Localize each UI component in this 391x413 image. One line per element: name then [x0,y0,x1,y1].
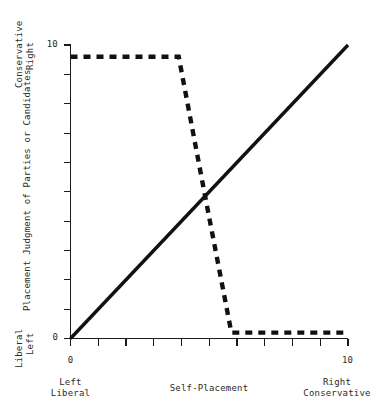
y-axis-pole-low-line1: Liberal [14,329,25,368]
chart-canvas [0,0,391,413]
x-axis-ticks [71,339,349,346]
y-axis-title: Placement Judgment of Parties or Candida… [22,69,33,311]
y-axis-ticks [64,45,71,339]
y-axis-pole-high-line2: Right [25,42,36,70]
y-axis-pole-low-line2: Left [25,333,36,355]
x-axis-min-label: 0 [56,355,85,366]
y-axis-min-label: 0 [36,332,58,343]
y-axis-max-label: 10 [36,39,58,50]
x-axis-title: Self-Placement [141,383,277,394]
x-axis-pole-high-line1: Right [288,377,386,388]
chart-figure: 10 0 Conservative Right Placement Judgme… [0,0,391,413]
x-axis-max-label: 10 [333,355,362,366]
series-contrast-step [71,57,349,333]
series-identity-diagonal [71,45,349,339]
x-axis-pole-high-line2: Conservative [288,388,386,399]
x-axis-pole-low-line1: Left [41,377,100,388]
x-axis-pole-low-line2: Liberal [41,388,100,399]
